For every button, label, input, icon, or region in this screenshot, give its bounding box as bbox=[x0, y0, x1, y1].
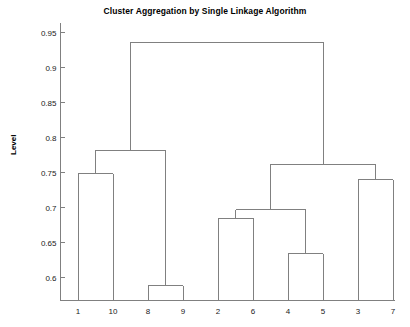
dendrogram-tree bbox=[78, 42, 393, 300]
y-tick-label: 0.85 bbox=[41, 99, 57, 108]
leaf-label: 10 bbox=[109, 307, 118, 316]
leaf-label: 3 bbox=[356, 307, 361, 316]
y-tick-label: 0.6 bbox=[45, 274, 57, 283]
leaf-label: 2 bbox=[216, 307, 221, 316]
leaf-label: 4 bbox=[286, 307, 291, 316]
leaf-label: 8 bbox=[146, 307, 151, 316]
axis-ticks bbox=[61, 33, 394, 301]
y-tick-label: 0.65 bbox=[41, 239, 57, 248]
dendrogram-plot: 0.950.90.850.80.750.70.650.6 11089264537 bbox=[0, 0, 410, 327]
axes bbox=[61, 23, 395, 301]
leaf-label: 6 bbox=[251, 307, 256, 316]
x-tick-labels: 11089264537 bbox=[76, 307, 396, 316]
leaf-label: 7 bbox=[391, 307, 396, 316]
y-tick-label: 0.9 bbox=[45, 64, 57, 73]
y-tick-label: 0.75 bbox=[41, 169, 57, 178]
y-tick-label: 0.8 bbox=[45, 134, 57, 143]
y-tick-labels: 0.950.90.850.80.750.70.650.6 bbox=[41, 29, 57, 283]
leaf-label: 1 bbox=[76, 307, 81, 316]
y-tick-label: 0.7 bbox=[45, 204, 57, 213]
y-tick-label: 0.95 bbox=[41, 29, 57, 38]
leaf-label: 9 bbox=[181, 307, 186, 316]
dendrogram-figure: Cluster Aggregation by Single Linkage Al… bbox=[0, 0, 410, 327]
leaf-label: 5 bbox=[321, 307, 326, 316]
